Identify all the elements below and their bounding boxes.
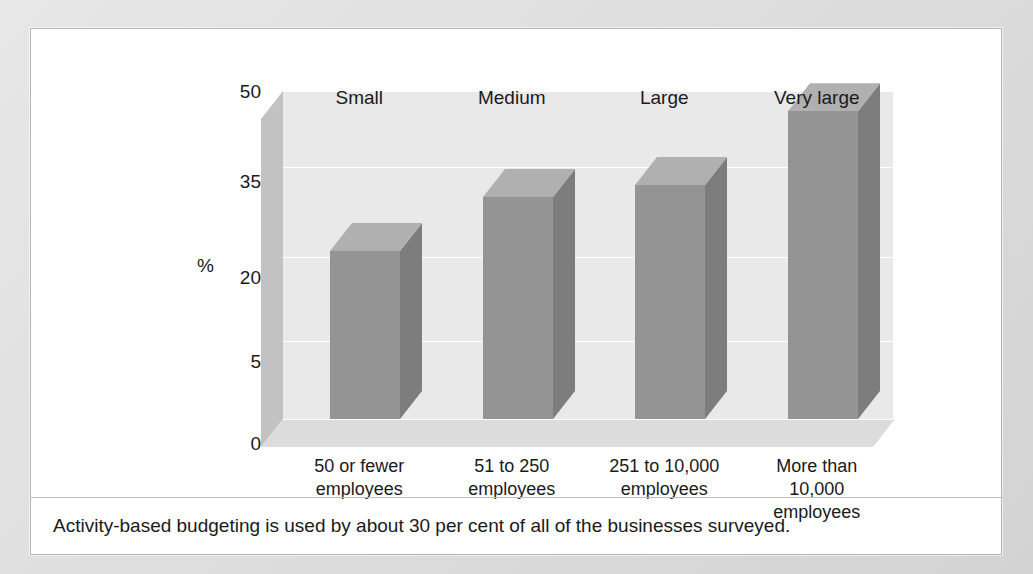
page-background: 50352050 % SmallMediumLargeVery large 50… xyxy=(0,0,1033,574)
group-label: Very large xyxy=(737,87,897,109)
y-axis-tick-label: 20 xyxy=(215,267,261,289)
y-axis-tick-label: 35 xyxy=(215,171,261,193)
bar xyxy=(483,169,553,419)
clipped-title-fragment xyxy=(470,0,530,7)
y-axis-tick-label: 50 xyxy=(215,81,261,103)
y-axis-tick-label: 0 xyxy=(215,433,261,455)
gridline-side xyxy=(261,313,285,343)
figure-panel: 50352050 % SmallMediumLargeVery large 50… xyxy=(30,28,1002,555)
bar xyxy=(330,223,400,419)
caption-text: Activity-based budgeting is used by abou… xyxy=(31,515,790,537)
gridline xyxy=(283,419,893,420)
chart-floor xyxy=(261,419,895,449)
bar-front-face xyxy=(635,185,705,419)
bar xyxy=(635,157,705,419)
bar-front-face xyxy=(483,197,553,419)
y-axis-ticks: 50352050 xyxy=(181,29,261,499)
gridline-side xyxy=(261,391,285,421)
group-label: Medium xyxy=(432,87,592,109)
figure-caption: Activity-based budgeting is used by abou… xyxy=(31,497,1003,554)
group-label: Small xyxy=(279,87,439,109)
group-label: Large xyxy=(584,87,744,109)
bar-front-face xyxy=(788,111,858,419)
bar-side-face xyxy=(858,83,880,419)
y-axis-tick-label: 5 xyxy=(215,351,261,373)
bar-side-face xyxy=(400,223,422,419)
bar-side-face xyxy=(553,169,575,419)
bar xyxy=(788,83,858,419)
gridline-side xyxy=(261,139,285,169)
bar-chart: 50352050 % SmallMediumLargeVery large 50… xyxy=(31,29,1003,499)
category-label-line: More than xyxy=(727,455,907,478)
bar-front-face xyxy=(330,251,400,419)
bar-side-face xyxy=(705,157,727,419)
y-axis-title: % xyxy=(197,255,214,277)
gridline-side xyxy=(261,229,285,259)
